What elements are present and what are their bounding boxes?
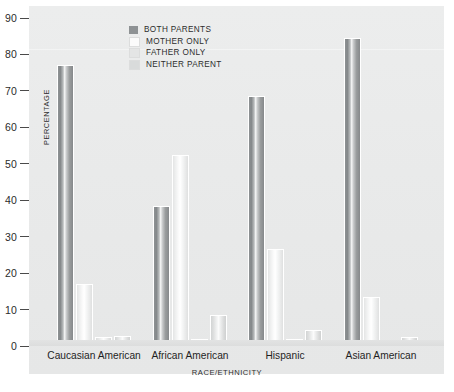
bar xyxy=(57,65,74,346)
y-axis-tick-label: 70 xyxy=(5,85,20,97)
x-axis-labels: Caucasian AmericanAfrican AmericanHispan… xyxy=(29,350,444,366)
bar-group xyxy=(344,38,418,346)
y-axis-tick-mark xyxy=(20,90,29,91)
y-axis-tick: 10 xyxy=(5,304,29,316)
y-axis: 9080706050403020100 xyxy=(0,0,29,392)
x-axis-tick-label: Asian American xyxy=(346,350,417,361)
bars-layer xyxy=(29,6,444,374)
y-axis-tick: 80 xyxy=(5,48,29,60)
y-axis-tick-label: 90 xyxy=(5,12,20,24)
bar xyxy=(363,297,380,346)
bar-group xyxy=(153,155,227,346)
bar xyxy=(248,96,265,346)
y-axis-tick: 60 xyxy=(5,121,29,133)
y-axis-tick-mark xyxy=(20,163,29,164)
y-axis-tick-label: 0 xyxy=(11,340,20,352)
y-axis-tick: 50 xyxy=(5,158,29,170)
y-axis-tick-label: 10 xyxy=(5,304,20,316)
y-axis-tick-mark xyxy=(20,309,29,310)
bar xyxy=(344,38,361,346)
y-axis-tick-mark xyxy=(20,273,29,274)
y-axis-tick-mark xyxy=(20,236,29,237)
bar xyxy=(267,249,284,346)
y-axis-tick-mark xyxy=(20,127,29,128)
y-axis-tick-mark xyxy=(20,200,29,201)
y-axis-tick-label: 30 xyxy=(5,231,20,243)
x-axis-title: RACE/ETHNICITY xyxy=(0,368,454,377)
bar-chart-figure: 9080706050403020100 PERCENTAGE BOTH PARE… xyxy=(0,0,454,392)
bar xyxy=(172,155,189,346)
y-axis-tick: 70 xyxy=(5,85,29,97)
y-axis-tick: 30 xyxy=(5,231,29,243)
y-axis-tick-label: 20 xyxy=(5,267,20,279)
y-axis-tick-mark xyxy=(20,346,29,347)
y-axis-tick-label: 60 xyxy=(5,121,20,133)
bar-group xyxy=(57,65,131,346)
y-axis-tick: 40 xyxy=(5,194,29,206)
y-axis-tick-mark xyxy=(20,18,29,19)
y-axis-tick: 0 xyxy=(11,340,29,352)
y-axis-tick-label: 40 xyxy=(5,194,20,206)
x-axis-tick-label: Caucasian American xyxy=(47,350,140,361)
bar-group xyxy=(248,96,322,346)
y-axis-tick-label: 50 xyxy=(5,158,20,170)
y-axis-tick-mark xyxy=(20,54,29,55)
y-axis-tick-label: 80 xyxy=(5,48,20,60)
x-axis-tick-label: African American xyxy=(151,350,228,361)
y-axis-tick: 90 xyxy=(5,12,29,24)
x-axis-tick-label: Hispanic xyxy=(265,350,304,361)
bar xyxy=(153,206,170,346)
axis-baseline xyxy=(29,340,444,346)
bar xyxy=(76,284,93,346)
y-axis-tick: 20 xyxy=(5,267,29,279)
